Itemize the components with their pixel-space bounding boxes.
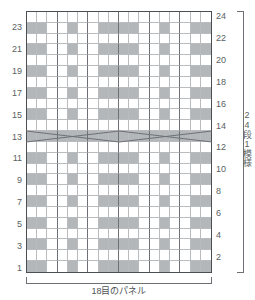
stitch-cell <box>119 164 129 175</box>
stitch-cell <box>58 250 68 261</box>
stitch-cell <box>201 55 211 66</box>
stitch-cell <box>191 153 201 164</box>
stitch-cell <box>88 261 98 272</box>
stitch-cell <box>129 174 139 185</box>
stitch-cell <box>150 23 160 34</box>
stitch-cell <box>150 34 160 45</box>
stitch-cell <box>99 12 109 23</box>
stitch-cell <box>180 207 190 218</box>
stitch-cell <box>129 77 139 88</box>
stitch-cell <box>191 218 201 229</box>
stitch-cell <box>68 229 78 240</box>
stitch-cell <box>78 34 88 45</box>
stitch-cell <box>201 261 211 272</box>
stitch-cell <box>139 185 149 196</box>
stitch-cell <box>37 44 47 55</box>
stitch-cell <box>68 12 78 23</box>
stitch-cell <box>109 120 119 131</box>
stitch-cell <box>99 250 109 261</box>
stitch-cell <box>27 207 37 218</box>
stitch-cell <box>109 218 119 229</box>
stitch-cell <box>160 66 170 77</box>
stitch-cell <box>191 142 201 153</box>
stitch-cell <box>180 99 190 110</box>
stitch-cell <box>68 34 78 45</box>
stitch-cell <box>150 261 160 272</box>
stitch-cell <box>129 44 139 55</box>
stitch-cell <box>88 12 98 23</box>
stitch-cell <box>37 196 47 207</box>
stitch-cell <box>78 99 88 110</box>
stitch-cell <box>139 174 149 185</box>
stitch-cell <box>191 109 201 120</box>
stitch-cell <box>27 153 37 164</box>
stitch-cell <box>78 88 88 99</box>
stitch-cell <box>88 66 98 77</box>
stitch-cell <box>191 12 201 23</box>
stitch-cell <box>27 12 37 23</box>
stitch-cell <box>109 261 119 272</box>
stitch-cell <box>27 229 37 240</box>
stitch-cell <box>119 109 129 120</box>
stitch-cell <box>201 218 211 229</box>
stitch-cell <box>78 185 88 196</box>
stitch-cell <box>150 44 160 55</box>
stitch-cell <box>170 109 180 120</box>
stitch-cell <box>68 23 78 34</box>
stitch-cell <box>150 185 160 196</box>
stitch-cell <box>78 131 88 142</box>
stitch-cell <box>109 196 119 207</box>
stitch-cell <box>109 23 119 34</box>
stitch-cell <box>37 164 47 175</box>
stitch-cell <box>99 196 109 207</box>
stitch-cell <box>99 239 109 250</box>
stitch-cell <box>160 229 170 240</box>
stitch-cell <box>150 131 160 142</box>
stitch-cell <box>160 88 170 99</box>
stitch-cell <box>129 88 139 99</box>
stitch-cell <box>37 120 47 131</box>
stitch-cell <box>58 99 68 110</box>
stitch-cell <box>47 239 57 250</box>
stitch-cell <box>58 185 68 196</box>
stitch-cell <box>88 239 98 250</box>
stitch-cell <box>160 131 170 142</box>
stitch-cell <box>180 66 190 77</box>
stitch-cell <box>58 142 68 153</box>
stitch-cell <box>37 88 47 99</box>
stitch-cell <box>99 185 109 196</box>
stitch-cell <box>109 55 119 66</box>
stitch-cell <box>47 120 57 131</box>
stitch-cell <box>201 12 211 23</box>
stitch-cell <box>150 229 160 240</box>
stitch-cell <box>129 55 139 66</box>
stitch-cell <box>37 109 47 120</box>
stitch-cell <box>191 77 201 88</box>
stitch-cell <box>150 164 160 175</box>
stitch-cell <box>191 185 201 196</box>
stitch-cell <box>129 218 139 229</box>
stitch-cell <box>191 131 201 142</box>
stitch-cell <box>191 174 201 185</box>
stitch-cell <box>27 174 37 185</box>
stitch-cell <box>170 218 180 229</box>
row-number-left: 17 <box>0 88 22 98</box>
knitting-chart: 2321191715131197531 24222018161412108642… <box>0 0 255 300</box>
stitch-cell <box>37 23 47 34</box>
stitch-cell <box>88 153 98 164</box>
stitch-cell <box>119 261 129 272</box>
stitch-cell <box>58 88 68 99</box>
stitch-cell <box>58 77 68 88</box>
stitch-cell <box>68 164 78 175</box>
stitch-cell <box>119 207 129 218</box>
stitch-cell <box>180 153 190 164</box>
stitch-cell <box>129 153 139 164</box>
stitch-cell <box>160 99 170 110</box>
row-number-left: 1 <box>0 263 22 273</box>
stitch-cell <box>99 218 109 229</box>
stitch-cell <box>201 196 211 207</box>
stitch-cell <box>109 164 119 175</box>
stitch-cell <box>109 109 119 120</box>
stitch-cell <box>191 250 201 261</box>
stitch-cell <box>201 131 211 142</box>
